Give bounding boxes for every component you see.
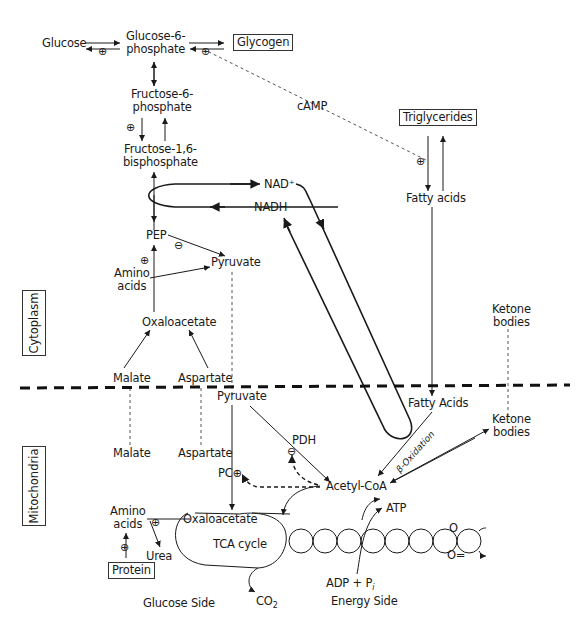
node-protein: Protein: [108, 562, 155, 579]
f16bp-line2: bisphosphate: [123, 156, 198, 169]
g6p-line2: phosphate: [126, 43, 185, 56]
node-nadh: NADH: [254, 201, 287, 214]
f6p-line2: phosphate: [131, 101, 193, 114]
node-pc: PC⊕: [218, 467, 242, 480]
glucose-side-label: Glucose Side: [143, 597, 215, 610]
activate-icon: ⊕: [201, 46, 210, 57]
node-malate-cytoplasm: Malate: [113, 372, 151, 385]
node-malate-mitochondria: Malate: [113, 447, 151, 460]
activate-icon: ⊕: [233, 466, 242, 480]
amino-mito-line2: acids: [110, 518, 146, 531]
pi-subscript: i: [372, 583, 374, 592]
node-glucose: Glucose: [42, 37, 86, 50]
node-pyruvate-cytoplasm: Pyruvate: [211, 256, 261, 269]
node-pyruvate-mitochondria: Pyruvate: [217, 390, 267, 403]
energy-side-label: Energy Side: [331, 595, 398, 608]
node-o-eq: O=: [447, 549, 465, 562]
inhibit-icon: ⊖: [287, 446, 296, 457]
node-pep: PEP: [146, 229, 167, 242]
amino-line2: acids: [114, 280, 150, 293]
node-nad-plus: NAD⁺: [264, 178, 295, 191]
adp-text: ADP + P: [326, 576, 372, 590]
mitochondria-label-box: Mitochondria: [22, 446, 46, 526]
activate-icon: ⊕: [120, 542, 129, 553]
node-acetyl-coa: Acetyl-CoA: [326, 480, 387, 493]
co2-text: CO: [256, 594, 273, 608]
node-amino-acids-cytoplasm: Amino acids: [114, 267, 150, 293]
cytoplasm-label: Cytoplasm: [27, 292, 41, 353]
node-oxaloacetate-mitochondria: Oxaloacetate: [183, 513, 257, 526]
pc-text: PC: [218, 466, 233, 480]
activate-icon: ⊕: [416, 156, 425, 167]
node-fructose-6-phosphate: Fructose-6- phosphate: [131, 88, 193, 114]
node-ketone-bodies-cytoplasm: Ketone bodies: [492, 303, 531, 329]
activate-icon: ⊕: [98, 46, 107, 57]
co2-subscript: 2: [273, 601, 278, 610]
node-adp-pi: ADP + Pi: [326, 577, 374, 594]
node-aspartate-cytoplasm: Aspartate: [178, 372, 232, 385]
node-triglycerides: Triglycerides: [399, 109, 477, 126]
cytoplasm-label-box: Cytoplasm: [22, 290, 46, 356]
mitochondria-label: Mitochondria: [27, 449, 41, 524]
node-glucose-6-phosphate: Glucose-6- phosphate: [126, 30, 185, 56]
node-aspartate-mitochondria: Aspartate: [178, 447, 232, 460]
ketone-mito-line2: bodies: [492, 426, 531, 439]
node-oxaloacetate-cytoplasm: Oxaloacetate: [142, 316, 216, 329]
node-camp: cAMP: [297, 100, 327, 113]
mitochondrial-membrane: [20, 385, 570, 388]
node-tca-cycle: TCA cycle: [213, 538, 267, 551]
node-atp: ATP: [386, 502, 406, 515]
activate-icon: ⊕: [151, 517, 160, 528]
node-o: O: [449, 522, 458, 535]
node-fatty-acids-mitochondria: Fatty Acids: [408, 397, 468, 410]
inhibit-icon: ⊖: [174, 240, 183, 251]
node-ketone-bodies-mitochondria: Ketone bodies: [492, 413, 531, 439]
node-amino-acids-mitochondria: Amino acids: [110, 505, 146, 531]
activate-icon: ⊕: [126, 122, 135, 133]
node-co2: CO2: [256, 595, 278, 612]
node-glycogen: Glycogen: [233, 34, 293, 51]
node-fructose-1-6-bisphosphate: Fructose-1,6- bisphosphate: [123, 143, 198, 169]
ketone-line2: bodies: [492, 316, 531, 329]
activate-icon: ⊕: [140, 255, 149, 266]
node-fatty-acids-cytoplasm: Fatty acids: [406, 192, 466, 205]
